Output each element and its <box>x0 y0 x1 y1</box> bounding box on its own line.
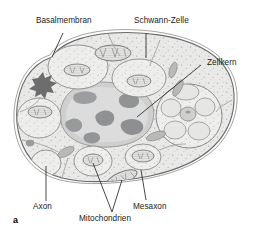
illustration-canvas <box>0 0 254 231</box>
leader-mitochondrien-2 <box>112 180 122 212</box>
label-mitochondrien: Mitochondrien <box>79 214 131 223</box>
figure-schwann-cell-cross-section: Basalmembran Schwann-Zelle Zellkern Axon… <box>0 0 254 231</box>
label-mesaxon: Mesaxon <box>133 202 167 211</box>
label-schwann-zelle: Schwann-Zelle <box>134 16 189 25</box>
label-basalmembran: Basalmembran <box>36 16 92 25</box>
label-zellkern: Zellkern <box>207 58 237 67</box>
panel-letter: a <box>13 215 18 225</box>
label-axon: Axon <box>33 202 52 211</box>
